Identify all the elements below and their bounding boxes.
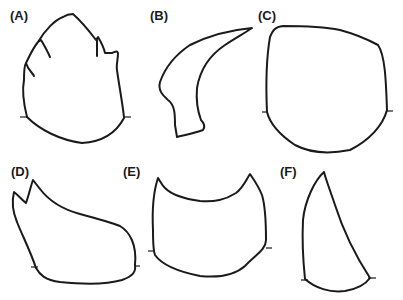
panel-label-c: (C) <box>258 9 276 22</box>
shape-outline-figure: (A) (B) (C) (D) (E) (F) <box>0 0 403 300</box>
panel-label-e: (E) <box>123 165 140 178</box>
panel-label-f: (F) <box>280 165 297 178</box>
shape-c <box>262 26 393 152</box>
panel-label-d: (D) <box>11 165 29 178</box>
shape-f <box>301 172 376 291</box>
shapes-canvas <box>0 0 403 300</box>
panel-label-a: (A) <box>10 9 28 22</box>
shape-a <box>20 14 131 143</box>
shape-b <box>159 28 252 137</box>
panel-label-b: (B) <box>150 9 168 22</box>
shape-d <box>13 180 140 284</box>
shape-e <box>148 174 272 277</box>
